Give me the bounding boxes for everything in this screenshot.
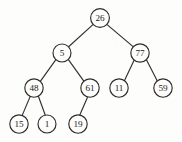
tree-nodes-group: 265774861115915119 xyxy=(10,9,172,134)
node-label: 1 xyxy=(45,119,50,129)
tree-node: 26 xyxy=(91,9,110,28)
tree-edge xyxy=(124,60,134,81)
tree-node: 11 xyxy=(110,79,128,97)
tree-canvas: 265774861115915119 xyxy=(0,0,182,142)
node-label: 15 xyxy=(15,119,24,129)
tree-edge xyxy=(146,60,157,81)
tree-edges-group xyxy=(22,24,157,115)
node-label: 11 xyxy=(115,83,124,93)
tree-edge xyxy=(80,97,88,115)
tree-node: 59 xyxy=(154,79,172,97)
node-label: 77 xyxy=(136,48,145,58)
tree-node: 48 xyxy=(25,79,43,97)
node-label: 26 xyxy=(96,13,105,23)
tree-edge xyxy=(107,24,134,47)
tree-node: 77 xyxy=(131,44,149,62)
node-label: 19 xyxy=(74,119,83,129)
binary-tree-figure: 265774861115915119 xyxy=(0,0,182,142)
node-label: 59 xyxy=(159,83,168,93)
tree-node: 5 xyxy=(53,44,71,62)
tree-node: 1 xyxy=(38,115,56,133)
tree-edge xyxy=(38,96,45,115)
tree-node: 61 xyxy=(81,79,99,97)
tree-edge xyxy=(40,60,56,82)
tree-node: 19 xyxy=(69,115,87,133)
node-label: 48 xyxy=(30,83,39,93)
node-label: 5 xyxy=(60,48,65,58)
tree-edge xyxy=(22,96,30,115)
tree-edge xyxy=(68,60,84,82)
tree-edge xyxy=(69,24,94,46)
node-label: 61 xyxy=(86,83,95,93)
tree-node: 15 xyxy=(10,115,28,133)
